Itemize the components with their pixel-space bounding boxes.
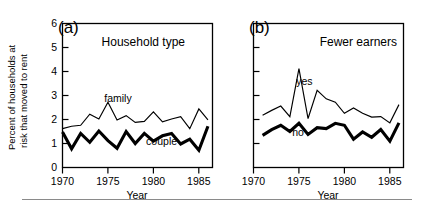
panel-a-y-tick-labels: 6 5 4 3 2 1 0	[51, 17, 57, 173]
x-tick-1985: 1985	[187, 175, 211, 187]
series-line-no	[263, 123, 399, 141]
y-tick-3: 3	[51, 89, 57, 101]
x-tick-1975: 1975	[287, 175, 311, 187]
figure-container: (a) Percent of households at risk that m…	[0, 0, 433, 210]
panel-b: (b) 1970 1975 1980 1985 Yea	[242, 18, 404, 201]
y-axis-label-line1: Percent of households at	[6, 45, 17, 150]
series-line-family	[63, 102, 208, 128]
y-tick-1: 1	[51, 137, 57, 149]
panel-a-letter: (a)	[58, 18, 79, 37]
x-tick-1975: 1975	[96, 175, 120, 187]
x-tick-1980: 1980	[142, 175, 166, 187]
y-tick-0: 0	[51, 161, 57, 173]
panel-b-title: Fewer earners	[320, 35, 397, 49]
series-label-couple: couple	[146, 135, 177, 147]
series-line-yes	[263, 69, 399, 123]
panel-a-x-ticks	[63, 168, 199, 174]
panel-b-x-tick-labels: 1970 1975 1980 1985	[242, 175, 402, 187]
series-label-no: no	[292, 126, 304, 138]
x-tick-1970: 1970	[242, 175, 266, 187]
panel-a: (a) Percent of households at risk that m…	[6, 17, 213, 201]
series-line-couple	[63, 126, 208, 150]
two-panel-line-chart: (a) Percent of households at risk that m…	[0, 0, 433, 210]
y-tick-4: 4	[51, 65, 57, 77]
x-tick-1970: 1970	[51, 175, 75, 187]
x-tick-1980: 1980	[333, 175, 357, 187]
y-axis-label-line2: risk that moved to rent	[18, 54, 29, 148]
series-label-family: family	[104, 92, 132, 104]
panel-b-y-ticks	[254, 48, 260, 144]
y-tick-5: 5	[51, 41, 57, 53]
panel-a-y-ticks	[63, 48, 69, 144]
y-tick-6: 6	[51, 17, 57, 29]
panel-b-x-ticks	[254, 168, 390, 174]
panel-a-x-tick-labels: 1970 1975 1980 1985	[51, 175, 211, 187]
series-label-yes: yes	[296, 75, 312, 87]
panel-b-letter: (b)	[249, 18, 270, 37]
y-tick-2: 2	[51, 113, 57, 125]
x-tick-1985: 1985	[378, 175, 402, 187]
panel-a-title: Household type	[102, 35, 186, 49]
